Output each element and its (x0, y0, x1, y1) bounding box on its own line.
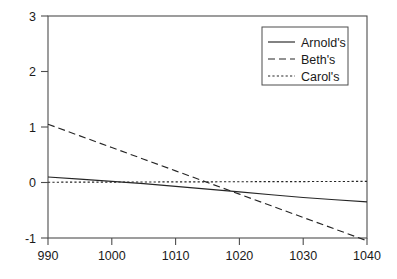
legend-label-beth-s: Beth's (301, 53, 335, 67)
line-chart: -10123 99010001010102010301040 Arnold'sB… (0, 0, 397, 279)
y-tick-label: -1 (25, 232, 36, 246)
legend-label-arnold-s: Arnold's (301, 36, 346, 50)
legend-label-carol-s: Carol's (301, 70, 340, 84)
x-tick-label: 990 (38, 249, 59, 263)
y-tick-label: 1 (29, 121, 36, 135)
x-tick-label: 1010 (162, 249, 190, 263)
x-tick-label: 1040 (353, 249, 381, 263)
y-tick-label: 3 (29, 10, 36, 24)
chart-legend: Arnold'sBeth'sCarol's (262, 27, 348, 85)
x-tick-label: 1000 (98, 249, 126, 263)
x-tick-label: 1020 (225, 249, 253, 263)
x-tick-label: 1030 (289, 249, 317, 263)
chart-screenshot: -10123 99010001010102010301040 Arnold'sB… (0, 0, 397, 279)
y-tick-label: 0 (29, 176, 36, 190)
y-tick-label: 2 (29, 65, 36, 79)
